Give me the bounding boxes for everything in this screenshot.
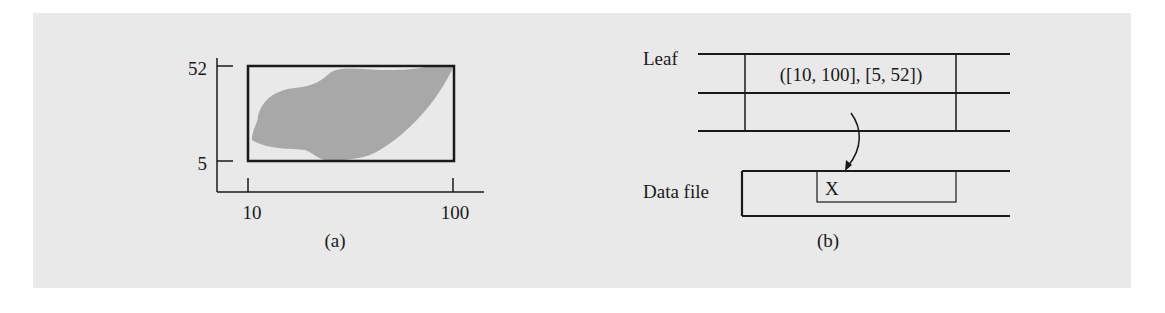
y-tick-label-52: 52 [188,58,207,79]
figure-canvas: 52 5 10 100 (a) Leaf ([10, 100], [5, 52]… [0,0,1165,313]
panel-b: Leaf ([10, 100], [5, 52]) Data file X (b… [643,48,1010,252]
y-tick-label-5: 5 [198,153,208,174]
caption-b: (b) [817,230,839,252]
leaf-entry-text: ([10, 100], [5, 52]) [780,64,922,86]
x-tick-label-100: 100 [441,202,470,223]
leaf-label: Leaf [643,48,678,69]
record-label: X [825,178,839,199]
x-tick-label-10: 10 [243,202,262,223]
data-file-label: Data file [643,181,709,202]
caption-a: (a) [324,230,345,252]
pointer-arrow [848,113,859,166]
spatial-object-shape [252,65,453,161]
panel-a: 52 5 10 100 (a) [188,58,484,252]
